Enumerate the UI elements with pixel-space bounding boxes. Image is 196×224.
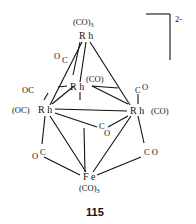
rh-top: R h — [79, 30, 93, 41]
fe-co3: (CO)3 — [79, 183, 99, 194]
cluster-structure-diagram: 2- R h (CO)3 R h (CO) R h (OC) — [0, 0, 196, 224]
top-co3: (CO)3 — [73, 17, 93, 28]
rh-mid: R h — [70, 81, 84, 92]
bridge-lower-left-o: O — [32, 151, 38, 161]
charge-bracket — [146, 14, 170, 60]
bridge-right-o: O — [142, 82, 148, 92]
bonds — [42, 42, 144, 175]
right-co: (CO) — [151, 106, 169, 116]
fe: F e — [83, 171, 96, 182]
bridge-lower-left-c: C — [40, 147, 46, 157]
bridge-top-left-c: C — [62, 55, 68, 65]
bridge-left-oc: OC — [22, 85, 34, 95]
bridge-lower-right: C O — [144, 147, 158, 157]
compound-number: 115 — [86, 206, 104, 218]
rh-left: R h — [38, 104, 52, 115]
charge-label: 2- — [175, 14, 182, 24]
bridge-center-o: O — [104, 128, 110, 138]
bridge-right-c: C — [135, 85, 141, 95]
rh-right: R h — [130, 105, 144, 116]
left-oc: (OC) — [12, 105, 30, 115]
mid-co: (CO) — [86, 74, 104, 84]
bridge-top-left-o: O — [54, 51, 60, 61]
